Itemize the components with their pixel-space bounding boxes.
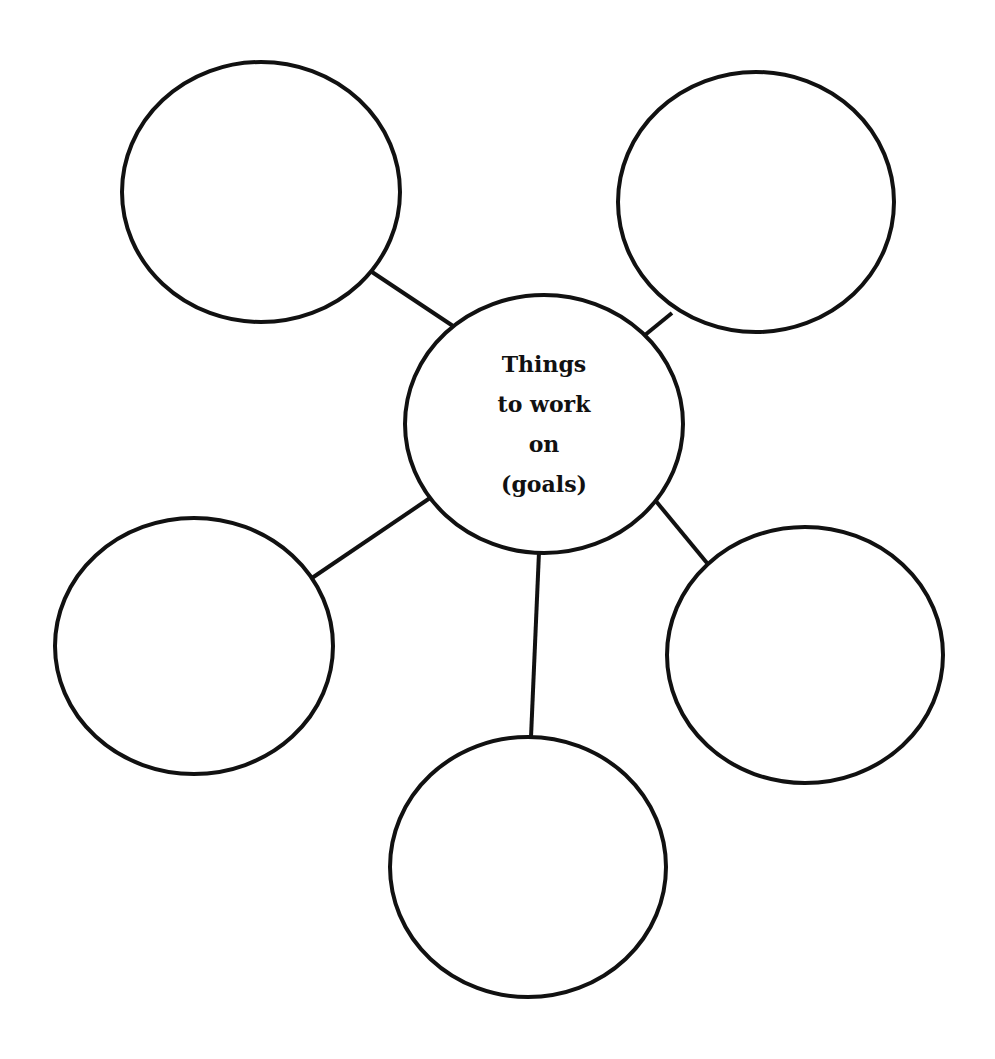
connector-middle-left — [312, 498, 430, 578]
center-label-line-3: on — [424, 424, 664, 464]
connector-middle-right — [655, 500, 707, 563]
satellite-circle-top-left — [122, 62, 400, 322]
connector-top-left — [372, 272, 453, 326]
connector-top-right — [645, 313, 672, 335]
center-label-line-1: Things — [424, 344, 664, 384]
satellite-circle-bottom — [390, 737, 666, 997]
center-label-line-4: (goals) — [424, 464, 664, 504]
connector-bottom — [531, 552, 539, 737]
mind-map-diagram — [0, 0, 995, 1059]
satellite-circle-top-right — [618, 72, 894, 332]
center-label: Things to work on (goals) — [424, 344, 664, 504]
center-label-line-2: to work — [424, 384, 664, 424]
satellite-circle-middle-left — [55, 518, 333, 774]
satellite-circle-middle-right — [667, 527, 943, 783]
